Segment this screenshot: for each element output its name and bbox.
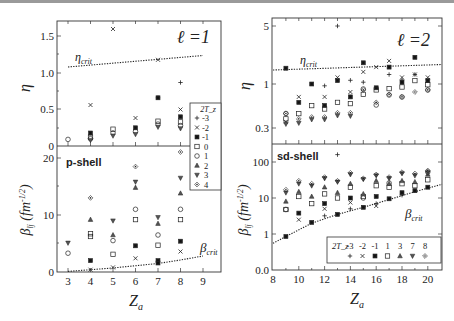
svg-text:8: 8 [423,241,427,251]
svg-text:6: 6 [133,275,139,287]
right-shell-label: sd-shell [277,150,319,162]
svg-text:-1: -1 [202,132,209,142]
svg-text:0.5: 0.5 [40,103,54,115]
svg-text:0.3: 0.3 [255,122,269,134]
svg-text:-1: -1 [371,241,378,251]
svg-text:1.5: 1.5 [40,30,54,42]
svg-text:-3: -3 [346,241,353,251]
svg-text:10: 10 [258,192,270,204]
svg-text:1: 1 [264,228,270,240]
svg-text:18: 18 [397,273,409,285]
left-beta-crit-label: βcrit [199,240,218,257]
svg-text:16: 16 [371,273,383,285]
svg-text:20: 20 [422,273,434,285]
right-x-tick-labels: 8 10 12 14 16 18 20 [270,273,434,285]
right-ell-label: ℓ =2 [397,30,430,50]
svg-text:12: 12 [319,273,330,285]
svg-text:-2: -2 [359,241,366,251]
svg-text:3: 3 [65,275,71,287]
svg-text:1.0: 1.0 [40,67,54,79]
svg-text:5: 5 [110,275,116,287]
right-beta-crit-label: βcrit [404,206,423,223]
svg-text:100: 100 [253,156,270,168]
svg-text:10: 10 [43,209,55,221]
right-eta-crit-line [273,65,442,71]
right-eta-ylabel: η [236,82,254,90]
right-figure: 8 10 12 14 16 18 20 0.3 1 5 0.0 1 10 100… [236,18,442,310]
left-legend: 2T_z -3 -2 -1 0 1 2 3 4 [190,103,221,190]
right-legend: 2T_z -3 -2 -1 1 3 7 8 [327,237,441,263]
svg-text:0.0: 0.0 [255,264,269,276]
svg-text:20: 20 [43,152,55,164]
svg-text:-3: -3 [202,113,209,123]
left-eta-points [66,27,183,143]
figure-canvas: 3 4 5 6 7 8 9 0 0.5 1.0 1.5 0 10 20 η βl… [0,0,454,321]
left-eta-crit-label: ηcrit [75,50,93,66]
svg-text:2: 2 [204,161,208,171]
right-y-tick-labels: 0.3 1 5 0.0 1 10 100 [253,20,270,276]
svg-text:5: 5 [264,20,270,32]
svg-text:1: 1 [385,241,389,251]
left-eta-ylabel: η [16,84,34,92]
svg-text:1: 1 [204,151,208,161]
right-beta-points [284,152,431,238]
right-xlabel: Za [350,290,364,310]
svg-text:10: 10 [293,273,305,285]
svg-text:7: 7 [410,241,414,251]
left-xlabel: Za [129,292,143,312]
right-eta-crit-label: ηcrit [300,53,318,69]
svg-text:8: 8 [270,273,276,285]
left-x-tick-labels: 3 4 5 6 7 8 9 [65,275,206,287]
left-y-tick-labels: 0 0.5 1.0 1.5 0 10 20 [40,30,54,278]
svg-text:4: 4 [88,275,94,287]
svg-text:3: 3 [204,170,208,180]
svg-text:0: 0 [49,140,55,152]
left-ell-label: ℓ =1 [177,27,210,47]
svg-text:0: 0 [49,266,55,278]
left-figure: 3 4 5 6 7 8 9 0 0.5 1.0 1.5 0 10 20 η βl… [16,21,221,312]
svg-text:14: 14 [345,273,357,285]
svg-text:9: 9 [200,275,206,287]
svg-text:7: 7 [155,275,161,287]
left-shell-label: p-shell [66,156,101,168]
left-beta-ylabel: βlj (fm-1/2) [18,184,35,237]
svg-text:-2: -2 [202,123,209,133]
svg-text:3: 3 [398,241,402,251]
svg-text:1: 1 [264,78,270,90]
svg-text:0: 0 [204,142,208,152]
svg-text:8: 8 [178,275,184,287]
right-beta-ylabel: βlj (fm-1/2) [236,184,253,237]
